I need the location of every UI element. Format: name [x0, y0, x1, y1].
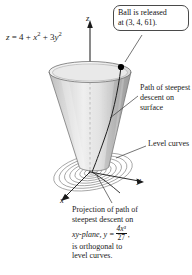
projection-line-2: steepest descent on [72, 215, 190, 225]
projection-formula-line: xy-plane, y =4x³27, [72, 225, 190, 242]
callout-line-1: Ball is released [118, 8, 185, 18]
projection-formula-comma: , [128, 229, 130, 238]
projection-line-1: Projection of path of [72, 205, 190, 215]
surface-rim-inner [53, 64, 128, 81]
ball-release-callout: Ball is released at (3, 4, 61). [113, 5, 189, 31]
callout-line-2: at (3, 4, 61). [118, 18, 185, 28]
equation-plus-1: + [26, 32, 31, 42]
steepest-descent-label: Path of steepest descent on surface [140, 83, 192, 112]
projection-formula-prefix: xy-plane, y = [72, 229, 115, 238]
ball-point [118, 64, 124, 70]
level-curves-label: Level curves [148, 139, 192, 149]
projection-label: Projection of path of steepest descent o… [72, 205, 190, 261]
x-axis-label: x [60, 196, 64, 206]
equation-lhs: z [6, 32, 10, 42]
equation-constant: 4 [19, 32, 24, 42]
equation-plus-2: + [43, 32, 48, 42]
equation-equals: = [12, 32, 17, 42]
projection-fraction-denominator: 27 [116, 234, 127, 242]
projection-line-4: is orthogonal to [72, 242, 190, 252]
surface-equation: z = 4 + x2 + 3y2 [6, 30, 62, 42]
equation-y-exponent: 2 [59, 30, 62, 37]
y-axis-label: y [137, 176, 141, 186]
equation-x-exponent: 2 [37, 30, 40, 37]
projection-line-5: level curves. [72, 251, 190, 261]
z-axis-label: z [86, 14, 89, 24]
projection-fraction: 4x³27 [116, 225, 127, 242]
